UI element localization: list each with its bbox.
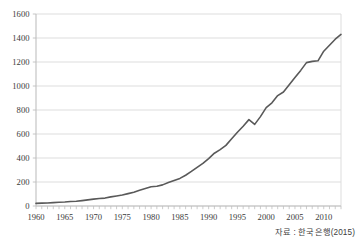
gdp-line-chart-figure: 02004006008001000120014001600 1960196519…: [0, 0, 360, 242]
x-tick-label: 1980: [143, 212, 160, 221]
y-tick-label: 1200: [12, 57, 29, 67]
series-line: [36, 34, 341, 203]
x-tick-label: 1970: [85, 212, 102, 221]
y-axis: 02004006008001000120014001600: [12, 9, 36, 211]
x-tick-label: 1960: [27, 212, 44, 221]
y-tick-label: 600: [17, 129, 30, 139]
x-tick-label: 1995: [229, 212, 246, 221]
x-tick-label: 2000: [258, 212, 275, 221]
x-tick-label: 1985: [171, 212, 188, 221]
y-tick-label: 800: [17, 105, 30, 115]
data-series-group: [36, 34, 341, 203]
x-tick-label: 2005: [286, 212, 303, 221]
x-tick-label: 1975: [114, 212, 131, 221]
y-tick-label: 1000: [12, 81, 29, 91]
x-tick-label: 1965: [56, 212, 73, 221]
y-tick-label: 400: [17, 153, 30, 163]
y-tick-label: 200: [17, 177, 30, 187]
chart-plot-area: 02004006008001000120014001600 1960196519…: [0, 0, 360, 220]
y-tick-label: 1600: [12, 9, 29, 19]
y-tick-label: 1400: [12, 33, 29, 43]
x-axis: 1960196519701975198019851990199520002005…: [27, 206, 341, 220]
x-tick-label: 2010: [315, 212, 332, 221]
source-note: 자료 : 한국은행(2015): [275, 225, 355, 237]
y-tick-label: 0: [25, 201, 29, 211]
x-tick-label: 1990: [200, 212, 217, 221]
gridlines: [36, 14, 341, 206]
